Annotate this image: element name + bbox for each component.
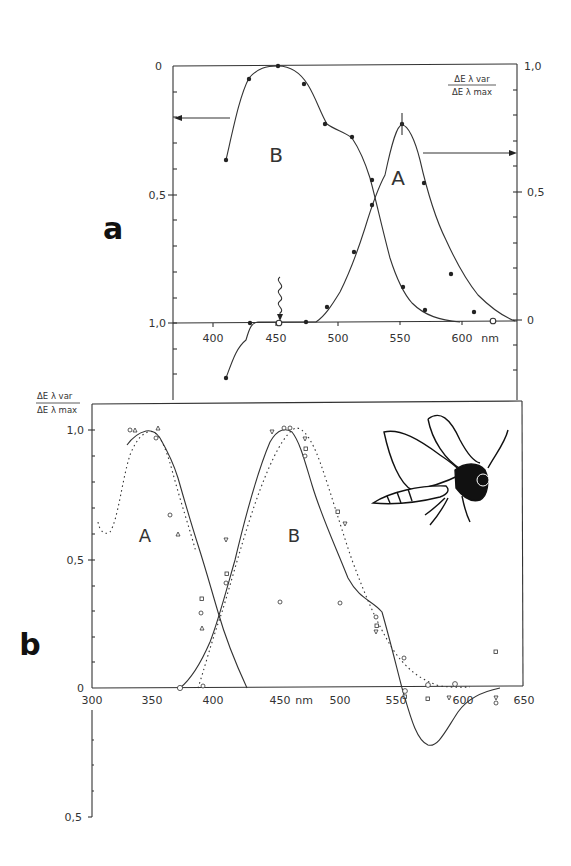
b-x-tick: 600 <box>453 694 474 707</box>
curve-a-solid-panel-b <box>127 431 247 688</box>
a-right-tick-05: 0,5 <box>527 186 545 199</box>
b-x-tick: 500 <box>330 694 351 707</box>
curve-b-label: B <box>269 143 283 167</box>
b-x-tick: 350 <box>142 694 163 707</box>
curve-a-label-b: A <box>139 525 152 546</box>
a-left-tick-0: 0 <box>155 60 162 73</box>
arrow-to-right-axis <box>423 150 517 156</box>
a-x-tick: 400 <box>203 332 224 345</box>
a-x-tick: 550 <box>390 332 411 345</box>
b-y-tick-neg05: 0,5 <box>65 811 83 824</box>
panel-b-letter: b <box>19 627 40 662</box>
b-x-tick: 400 <box>203 694 224 707</box>
b-y-tick-10: 1,0 <box>67 424 85 437</box>
b-x-tick: 450 <box>270 694 291 707</box>
b-x-unit: nm <box>295 694 313 707</box>
curve-a-label: A <box>391 166 405 190</box>
stimulus-wavy-arrow-icon <box>278 277 281 318</box>
open-point <box>276 320 282 326</box>
open-point <box>490 318 496 324</box>
panel-a-letter: a <box>103 211 123 246</box>
ratio-numerator: ΔE λ var <box>454 74 490 84</box>
a-x-tick: 600 <box>452 332 473 345</box>
b-x-tick: 650 <box>514 694 535 707</box>
a-right-tick-10: 1,0 <box>524 60 542 73</box>
b-ratio-numerator: ΔE λ var <box>37 391 73 401</box>
curve-b-label-b: B <box>288 525 300 546</box>
b-x-tick: 550 <box>386 694 407 707</box>
b-x-tick: 300 <box>82 694 103 707</box>
data-points-a <box>224 122 476 380</box>
figure: 0 0,5 1,0 1,0 0,5 0 400 450 500 550 600 … <box>0 0 571 866</box>
panel-a <box>168 64 522 400</box>
a-x-tick: 450 <box>266 332 287 345</box>
a-x-unit: nm <box>481 332 499 345</box>
panel-a-labels: 0 0,5 1,0 1,0 0,5 0 400 450 500 550 600 … <box>103 60 545 345</box>
a-right-tick-0: 0 <box>527 314 534 327</box>
ratio-denominator: ΔE λ max <box>452 87 492 97</box>
a-x-tick: 500 <box>328 332 349 345</box>
curve-b-panel-a <box>226 66 460 322</box>
panel-b-labels: ΔE λ var ΔE λ max 1,0 0,5 0 0,5 300 350 … <box>19 391 534 824</box>
a-left-tick-10: 1,0 <box>149 317 167 330</box>
panel-b <box>88 401 523 817</box>
moth-illustration-icon <box>373 415 508 525</box>
arrow-to-left-axis <box>174 115 230 121</box>
b-ratio-denominator: ΔE λ max <box>37 405 77 415</box>
a-left-tick-05: 0,5 <box>149 189 167 202</box>
b-y-tick-05: 0,5 <box>67 554 85 567</box>
